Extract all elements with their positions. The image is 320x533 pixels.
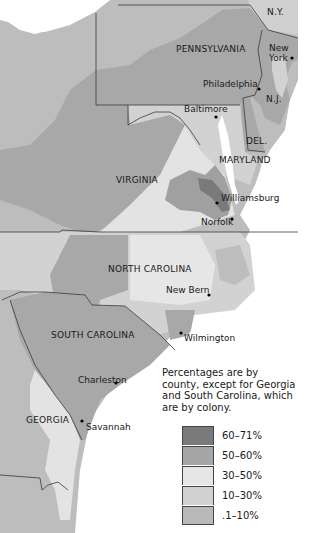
label-georgia: GEORGIA [26, 415, 69, 425]
legend-label: 50–60% [222, 450, 262, 461]
label-maryland: MARYLAND [219, 155, 271, 165]
label-virginia: VIRGINIA [116, 175, 158, 185]
label-ny: N.Y. [267, 7, 284, 17]
legend-item: 10–30% [182, 485, 262, 505]
label-charleston: Charleston [78, 375, 127, 385]
label-south-carolina: SOUTH CAROLINA [51, 330, 135, 340]
dot-philadelphia [257, 87, 260, 90]
legend-swatch [182, 446, 214, 465]
label-new-york: New York [269, 43, 297, 63]
legend-label: 10–30% [222, 490, 262, 501]
dot-savannah [80, 419, 83, 422]
legend: 60–71% 50–60% 30–50% 10–30% .1–10% [182, 425, 262, 525]
legend-item: 60–71% [182, 425, 262, 445]
label-williamsburg: Williamsburg [221, 193, 279, 203]
legend-swatch [182, 506, 214, 525]
legend-item: 30–50% [182, 465, 262, 485]
map-note: Percentages are by county, except for Ge… [162, 367, 298, 413]
label-norfolk: Norfolk [201, 217, 233, 227]
legend-swatch [182, 486, 214, 505]
label-delaware: DEL. [246, 136, 267, 146]
label-baltimore: Baltimore [184, 104, 228, 114]
label-new-bern: New Bern [166, 285, 209, 295]
legend-swatch [182, 426, 214, 445]
label-philadelphia: Philadelphia [203, 79, 258, 89]
label-pennsylvania: PENNSYLVANIA [176, 44, 246, 54]
legend-item: 50–60% [182, 445, 262, 465]
legend-label: 60–71% [222, 430, 262, 441]
dot-wilmington [179, 331, 182, 334]
dot-baltimore [214, 115, 217, 118]
legend-label: 30–50% [222, 470, 262, 481]
label-north-carolina: NORTH CAROLINA [108, 264, 192, 274]
label-wilmington: Wilmington [184, 333, 235, 343]
label-nj: N.J. [266, 94, 282, 104]
legend-label: .1–10% [222, 510, 259, 521]
legend-swatch [182, 466, 214, 485]
label-savannah: Savannah [86, 422, 131, 432]
dot-williamsburg [215, 201, 218, 204]
legend-item: .1–10% [182, 505, 262, 525]
